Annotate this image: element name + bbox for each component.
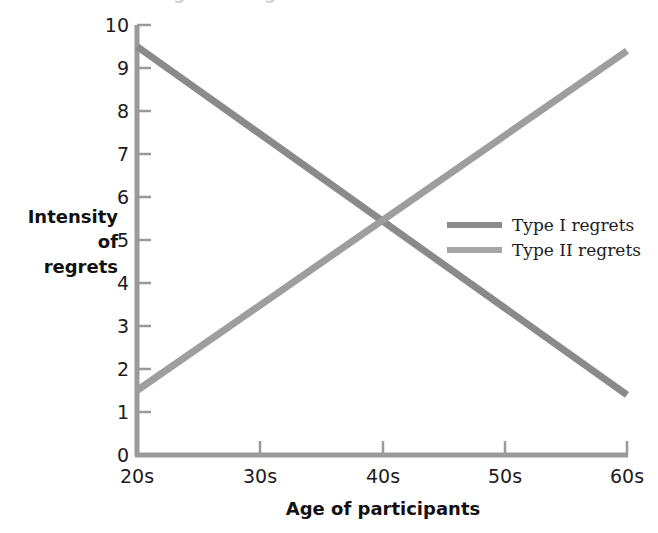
x-tick-label-30s: 30s [243, 465, 277, 487]
y-tick-label-0: 0 [117, 444, 129, 466]
y-tick-label-3: 3 [117, 315, 129, 337]
x-axis-title: Age of participants [286, 498, 480, 519]
y-axis-title-line-3: regrets [44, 256, 118, 277]
legend-entry-type-ii[interactable]: Type II regrets [447, 240, 641, 260]
y-tick-label-8: 8 [117, 100, 129, 122]
y-tick-label-10: 10 [105, 14, 129, 36]
x-tick-label-60s: 60s [610, 465, 644, 487]
chart-figure: Age and regret 10 9 8 7 [0, 0, 658, 533]
x-tick-label-50s: 50s [488, 465, 522, 487]
x-tick-label-40s: 40s [366, 465, 400, 487]
y-tick-label-9: 9 [117, 57, 129, 79]
y-tick-label-2: 2 [117, 358, 129, 380]
x-tick-label-20s: 20s [120, 465, 154, 487]
legend-entry-type-i[interactable]: Type I regrets [447, 215, 634, 235]
y-axis-title: Intensity of regrets [28, 206, 119, 277]
y-axis-title-line-2: of [98, 231, 118, 252]
x-axis-tick-labels: 20s 30s 40s 50s 60s [120, 465, 644, 487]
y-tick-label-5: 5 [117, 229, 129, 251]
legend-label-type-i: Type I regrets [512, 215, 634, 235]
y-tick-label-6: 6 [117, 186, 129, 208]
chart-legend: Type I regrets Type II regrets [447, 215, 641, 260]
y-axis-title-line-1: Intensity [28, 206, 119, 227]
line-chart-svg: Age and regret 10 9 8 7 [0, 0, 658, 533]
y-tick-label-7: 7 [117, 143, 129, 165]
cropped-title-text: Age and regret [160, 0, 305, 3]
y-tick-label-1: 1 [117, 401, 129, 423]
y-tick-label-4: 4 [117, 272, 129, 294]
legend-label-type-ii: Type II regrets [512, 240, 641, 260]
cropped-title-remnant: Age and regret [160, 0, 305, 3]
